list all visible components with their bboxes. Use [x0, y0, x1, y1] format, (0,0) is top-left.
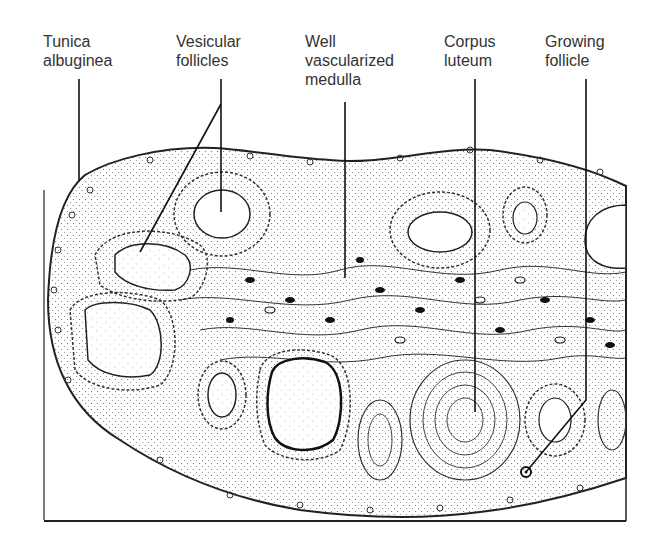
label-well-vascularized-medulla: Well vascularized medulla	[305, 32, 394, 89]
label-growing-follicle: Growing follicle	[545, 32, 605, 70]
label-tunica-albuginea: Tunica albuginea	[43, 32, 112, 70]
label-vesicular-follicles: Vesicular follicles	[176, 32, 241, 70]
label-corpus-luteum: Corpus luteum	[444, 32, 496, 70]
